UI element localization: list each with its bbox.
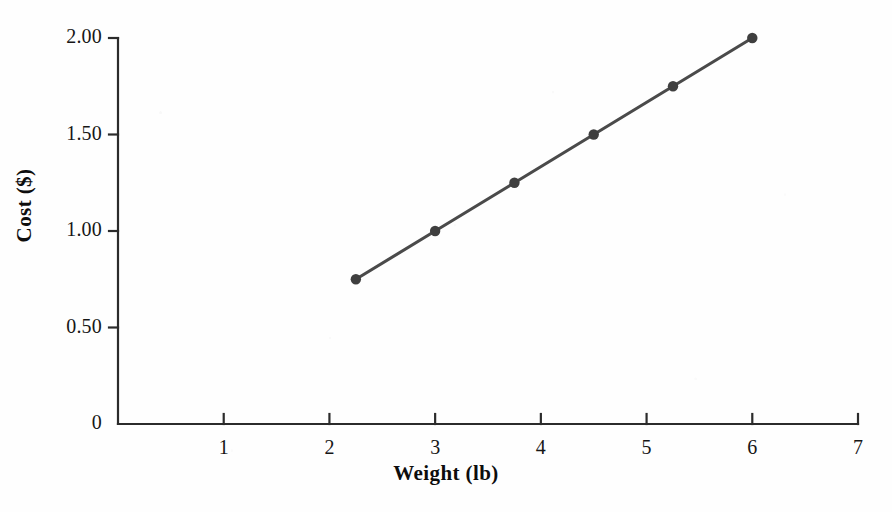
x-tick-label: 1	[194, 436, 254, 459]
data-point-marker	[430, 226, 440, 236]
x-tick-label: 2	[299, 436, 359, 459]
x-axis-ticks	[224, 414, 858, 424]
x-tick-label: 5	[617, 436, 677, 459]
x-tick-label: 3	[405, 436, 465, 459]
x-axis-title: Weight (lb)	[0, 461, 892, 486]
data-point-marker	[747, 33, 757, 43]
y-tick-label: 0.50	[0, 315, 102, 338]
data-point-marker	[589, 129, 599, 139]
y-tick-label: 0	[0, 411, 102, 434]
x-tick-label: 4	[511, 436, 571, 459]
data-point-marker	[351, 274, 361, 284]
x-tick-label: 7	[828, 436, 888, 459]
chart-page: 00.501.001.502.00 1234567 Weight (lb) Co…	[0, 0, 892, 512]
y-axis-title: Cost ($)	[12, 116, 37, 296]
axes	[118, 38, 858, 424]
data-series-line	[356, 38, 752, 279]
y-tick-label: 2.00	[0, 25, 102, 48]
y-axis-ticks	[109, 38, 118, 328]
data-point-marker	[509, 178, 519, 188]
data-point-marker	[668, 81, 678, 91]
x-tick-label: 6	[722, 436, 782, 459]
